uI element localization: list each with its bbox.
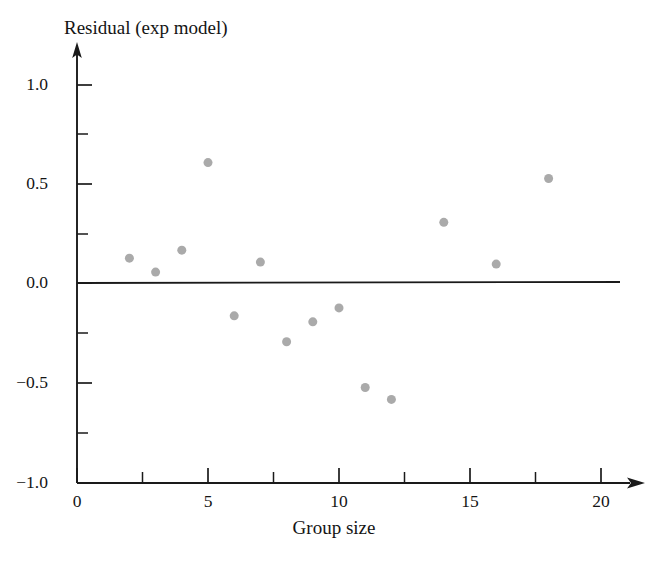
x-axis [77, 477, 645, 488]
data-point [204, 158, 213, 167]
x-axis-title: Group size [0, 517, 668, 539]
x-tick-label-5: 5 [186, 491, 230, 512]
data-point [308, 317, 317, 326]
x-tick-label-20: 20 [579, 491, 623, 512]
data-point [439, 218, 448, 227]
data-point-group [125, 158, 553, 404]
data-point [177, 246, 186, 255]
y-axis-title: Residual (exp model) [64, 17, 228, 39]
y-major-ticks [77, 85, 92, 483]
y-tick-label-0.5: 0.5 [0, 173, 48, 194]
data-point [230, 311, 239, 320]
data-point [544, 174, 553, 183]
x-major-ticks [77, 468, 601, 483]
x-tick-label-0: 0 [55, 491, 99, 512]
x-tick-label-15: 15 [448, 491, 492, 512]
y-tick-label--1.0: −1.0 [0, 472, 48, 493]
y-axis [72, 42, 82, 483]
data-point [387, 395, 396, 404]
y-tick-label-1.0: 1.0 [0, 74, 48, 95]
data-point [361, 383, 370, 392]
plot-canvas [0, 0, 668, 562]
data-point [256, 258, 265, 267]
y-tick-label-0.0: 0.0 [0, 272, 48, 293]
data-point [335, 303, 344, 312]
x-tick-label-10: 10 [317, 491, 361, 512]
data-point [282, 337, 291, 346]
scatter-plot-figure: Residual (exp model) Group size 1.0 0.5 … [0, 0, 668, 562]
data-point [492, 260, 501, 269]
zero-reference-line [77, 282, 620, 283]
y-tick-label--0.5: −0.5 [0, 372, 48, 393]
data-point [125, 254, 134, 263]
data-point [151, 268, 160, 277]
